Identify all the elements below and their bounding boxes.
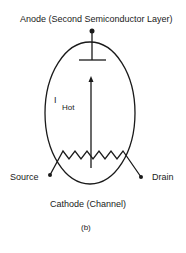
source-terminal-dot (48, 173, 52, 177)
source-label: Source (10, 173, 39, 182)
current-arrow-head (89, 76, 94, 82)
drain-label: Drain (152, 173, 174, 182)
current-label-i: I (54, 96, 57, 105)
anode-label: Anode (Second Semiconductor Layer) (20, 15, 173, 24)
channel-zigzag (50, 151, 141, 177)
cathode-label: Cathode (Channel) (50, 200, 126, 209)
anode-terminal-dot (90, 29, 95, 34)
diagram-canvas (0, 0, 186, 253)
drain-terminal-dot (139, 175, 143, 179)
figure-caption: (b) (81, 224, 91, 232)
device-ellipse (45, 42, 135, 184)
current-label-hot: Hot (62, 104, 74, 112)
